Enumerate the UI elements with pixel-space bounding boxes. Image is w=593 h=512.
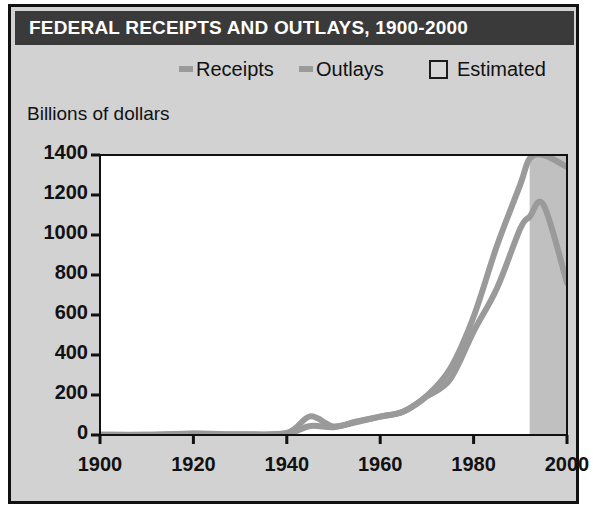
y-axis-tick-label: 1000	[16, 221, 88, 244]
estimated-band	[530, 155, 567, 435]
x-axis-tick-label: 1980	[436, 453, 512, 476]
y-axis-tick-label: 1400	[16, 141, 88, 164]
chart-plot-svg	[11, 7, 582, 507]
y-axis-tick-label: 600	[16, 301, 88, 324]
y-axis-tick-label: 200	[16, 381, 88, 404]
y-axis-tick-label: 800	[16, 261, 88, 284]
x-axis-tick-label: 1960	[342, 453, 418, 476]
y-axis-tick-label: 1200	[16, 181, 88, 204]
y-axis-tick-label: 400	[16, 341, 88, 364]
chart-figure: FEDERAL RECEIPTS AND OUTLAYS, 1900-2000 …	[8, 4, 579, 504]
x-axis-tick-label: 2000	[529, 453, 593, 476]
plot-area-wrapper	[11, 7, 576, 501]
x-axis-tick-label: 1900	[62, 453, 138, 476]
x-axis-tick-label: 1940	[249, 453, 325, 476]
y-axis-tick-label: 0	[16, 421, 88, 444]
x-axis-tick-label: 1920	[155, 453, 231, 476]
